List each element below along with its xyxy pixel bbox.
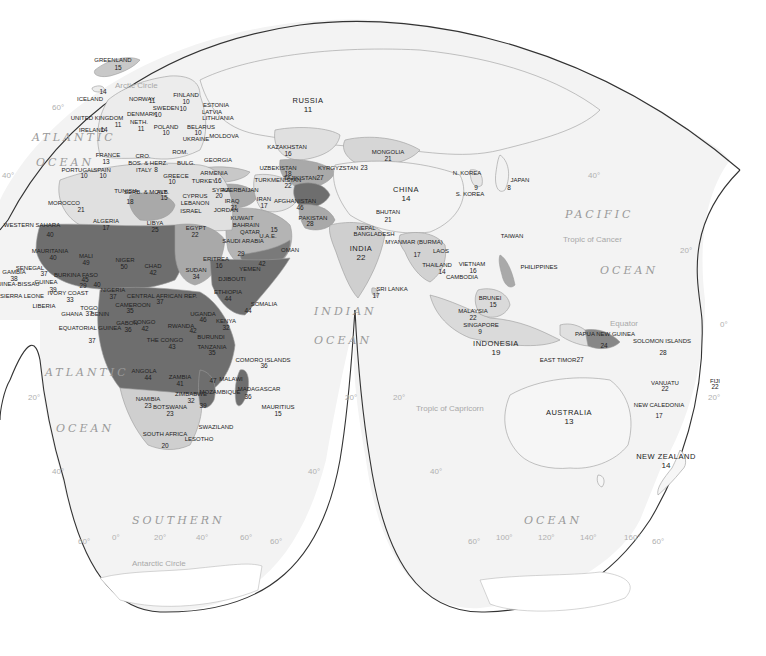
svg-text:32: 32 (222, 324, 230, 331)
svg-text:14: 14 (99, 88, 107, 95)
label-pacific-2: OCEAN (600, 264, 658, 277)
svg-text:27: 27 (576, 356, 584, 363)
label-afghanistan: AFGHANISTAN (274, 198, 316, 204)
label-australia: AUSTRALIA (546, 408, 592, 417)
svg-text:10: 10 (179, 105, 187, 112)
lon-40-label: 40° (196, 533, 208, 542)
svg-text:27: 27 (316, 174, 324, 181)
label-cambodia: CAMBODIA (446, 274, 478, 280)
label-lebanon: LEBANON (181, 200, 210, 206)
lat-40s-mid-label: 40° (308, 467, 320, 476)
svg-text:44: 44 (224, 295, 232, 302)
svg-text:36: 36 (244, 393, 252, 400)
svg-text:49: 49 (82, 259, 90, 266)
lat-20s-west-label: 20° (28, 393, 40, 402)
svg-text:33: 33 (66, 296, 74, 303)
svg-text:46: 46 (296, 204, 304, 211)
svg-text:23: 23 (360, 164, 368, 171)
label-russia: RUSSIA (293, 96, 324, 105)
label-newzealand: NEW ZEALAND (636, 452, 696, 461)
svg-text:13: 13 (102, 158, 110, 165)
lon-100-label: 100° (496, 533, 513, 542)
svg-text:11: 11 (138, 125, 145, 132)
label-estonia: ESTONIA (203, 102, 229, 108)
label-turkmenistan: TURKMENISTAN (255, 177, 302, 183)
lat-60s-m2-label: 60° (468, 537, 480, 546)
label-indonesia: INDONESIA (473, 339, 519, 348)
lat-60s-e-label: 60° (652, 537, 664, 546)
label-guinea: GUINEA (34, 279, 57, 285)
arctic-circle-label: Arctic Circle (115, 81, 158, 90)
svg-text:17: 17 (655, 412, 663, 419)
svg-text:16: 16 (469, 267, 477, 274)
label-swaziland: SWAZILAND (199, 424, 234, 430)
label-myanmar: MYANMAR (BURMA) (385, 239, 443, 245)
lat-20s-mid2-label: 20° (393, 393, 405, 402)
svg-text:17: 17 (413, 251, 421, 258)
label-romania: ROM. (172, 149, 188, 155)
world-map: ATLANTIC OCEAN ATLANTIC OCEAN INDIAN OCE… (0, 0, 766, 656)
tropic-cancer-label: Tropic of Cancer (563, 235, 622, 244)
label-southern-2: OCEAN (524, 514, 582, 527)
svg-text:15: 15 (270, 226, 278, 233)
svg-text:23: 23 (166, 410, 174, 417)
svg-text:46: 46 (199, 316, 207, 323)
label-indian-2: OCEAN (314, 334, 372, 347)
svg-text:15: 15 (114, 64, 122, 71)
lon-20-label: 20° (154, 533, 166, 542)
label-thailand: THAILAND (422, 262, 452, 268)
svg-text:14: 14 (438, 268, 446, 275)
label-armenia: ARMENIA (200, 170, 227, 176)
lat-60s-m-label: 60° (270, 537, 282, 546)
svg-text:11: 11 (149, 97, 156, 104)
label-djibouti: DJIBOUTI (218, 276, 246, 282)
label-png: PAPUA NEW GUINEA (575, 331, 635, 337)
svg-text:32: 32 (187, 397, 195, 404)
svg-text:37: 37 (156, 298, 164, 305)
svg-text:44: 44 (244, 307, 252, 314)
label-srilanka: SRI LANKA (376, 286, 407, 292)
label-yemen: YEMEN (239, 266, 260, 272)
label-burkinafaso: BURKINA FASO (54, 272, 98, 278)
svg-text:22: 22 (284, 182, 292, 189)
svg-text:11: 11 (115, 121, 122, 128)
svg-text:47: 47 (209, 377, 217, 384)
svg-text:11: 11 (304, 105, 313, 114)
svg-text:40: 40 (46, 231, 54, 238)
label-lithuania: LITHUANIA (202, 115, 233, 121)
label-pacific-1: PACIFIC (564, 208, 634, 221)
label-southafrica-1: SOUTH AFRICA (143, 431, 187, 437)
svg-text:10: 10 (162, 129, 170, 136)
svg-text:37: 37 (109, 293, 117, 300)
svg-text:35: 35 (126, 307, 134, 314)
label-portugal: PORTUGAL (62, 167, 96, 173)
label-sierraleone: SIERRA LEONE (0, 293, 44, 299)
label-tunisia: TUNISIA (114, 188, 138, 194)
label-atlantic-south-2: OCEAN (56, 422, 114, 435)
tropic-capricorn-label: Tropic of Capricorn (416, 404, 484, 413)
svg-text:21: 21 (77, 206, 85, 213)
svg-text:17: 17 (260, 202, 268, 209)
label-georgia: GEORGIA (204, 157, 232, 163)
svg-text:22: 22 (469, 314, 477, 321)
svg-text:14: 14 (100, 126, 108, 133)
lat-20n-label: 20° (680, 246, 692, 255)
label-iceland: ICELAND (77, 96, 104, 102)
svg-text:16: 16 (214, 177, 222, 184)
svg-text:44: 44 (144, 374, 152, 381)
svg-text:8: 8 (154, 166, 158, 173)
svg-text:16: 16 (215, 262, 223, 269)
label-bulgaria: BULG. (177, 160, 195, 166)
antarctica-right (480, 572, 630, 611)
label-somalia: SOMALIA (251, 301, 278, 307)
svg-text:42: 42 (189, 327, 197, 334)
lat-40s-mid2-label: 40° (430, 467, 442, 476)
label-japan: JAPAN (511, 177, 530, 183)
svg-text:41: 41 (176, 380, 184, 387)
svg-text:10: 10 (99, 172, 107, 179)
svg-text:28: 28 (306, 220, 314, 227)
svg-text:22: 22 (661, 385, 669, 392)
svg-text:10: 10 (80, 172, 88, 179)
svg-text:39: 39 (199, 402, 207, 409)
label-croatia: CRO. (136, 153, 151, 159)
